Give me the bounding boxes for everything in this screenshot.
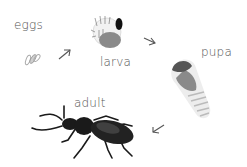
label-eggs: eggs (14, 18, 43, 32)
larva-icon (91, 14, 127, 54)
arrow-down-left-icon (151, 124, 165, 134)
pupa-icon (166, 56, 216, 122)
eggs-icon (22, 51, 42, 67)
arrow-up-right-icon (58, 48, 72, 60)
arrow-down-right-icon (143, 36, 157, 46)
label-larva: larva (100, 55, 131, 69)
stag-beetle-icon (28, 100, 138, 165)
